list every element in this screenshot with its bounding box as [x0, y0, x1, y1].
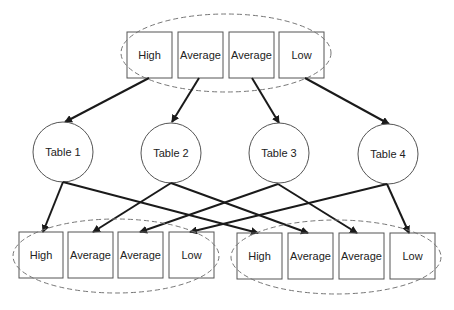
bottom-left-box-average-1-label: Average [70, 249, 111, 261]
bottom-left-box-high-label: High [30, 249, 53, 261]
table-4-label: Table 4 [370, 148, 405, 160]
bottom-right-box-low-label: Low [402, 250, 422, 262]
arrow-top-average-to-table-2 [172, 78, 199, 122]
table-1-label: Table 1 [45, 146, 80, 158]
arrow-top-high-to-table-1 [65, 78, 149, 122]
top-to-table-arrows [65, 78, 389, 124]
bottom-right-box-high-label: High [248, 250, 271, 262]
arrow-top-average-to-table-3 [252, 78, 279, 123]
table-2-label: Table 2 [153, 147, 188, 159]
table-3-label: Table 3 [261, 147, 296, 159]
top-box-average-1-label: Average [180, 49, 221, 61]
diagram-canvas: High Average Average Low Table 1 Table 2… [0, 0, 454, 310]
top-box-average-2-label: Average [231, 49, 272, 61]
top-box-low-label: Low [291, 49, 311, 61]
bottom-right-box-average-1-label: Average [290, 250, 331, 262]
table-to-bottom-arrows [43, 182, 409, 233]
bottom-right-group: High Average Average Low [231, 220, 441, 294]
tables: Table 1 Table 2 Table 3 Table 4 [33, 122, 418, 184]
arrow-top-low-to-table-4 [305, 78, 389, 124]
bottom-left-box-low-label: Low [181, 249, 201, 261]
bottom-left-group: High Average Average Low [13, 219, 219, 293]
bottom-left-box-average-2-label: Average [120, 249, 161, 261]
bottom-right-box-average-2-label: Average [341, 250, 382, 262]
top-group: High Average Average Low [121, 14, 331, 92]
top-box-high-label: High [138, 49, 161, 61]
